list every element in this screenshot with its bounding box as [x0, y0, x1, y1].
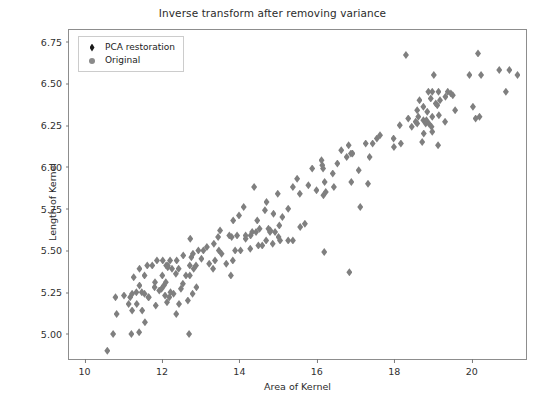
scatter-point [187, 271, 193, 279]
scatter-point [272, 228, 278, 236]
scatter-point [230, 216, 236, 224]
scatter-point [420, 103, 426, 111]
scatter-point [251, 183, 257, 191]
scatter-point [254, 216, 260, 224]
y-tick-label: 6.25 [41, 120, 69, 131]
scatter-point [503, 88, 509, 96]
x-axis-label: Area of Kernel [68, 381, 527, 392]
scatter-point [173, 310, 179, 318]
legend-label-pca-restoration: PCA restoration [100, 41, 175, 54]
scatter-point [259, 241, 265, 249]
scatter-point [309, 165, 315, 173]
scatter-point [217, 226, 223, 234]
scatter-point [285, 205, 291, 213]
scatter-point [276, 221, 282, 229]
scatter-point [330, 170, 336, 178]
y-tick-label: 5.00 [41, 328, 69, 339]
legend-label-original: Original [100, 54, 140, 67]
scatter-point [149, 261, 155, 269]
scatter-point [129, 307, 135, 315]
y-tick-label: 6.75 [41, 36, 69, 47]
scatter-point [142, 318, 148, 326]
y-tick-label: 5.25 [41, 287, 69, 298]
scatter-point [228, 271, 234, 279]
scatter-point [263, 236, 269, 244]
scatter-point [435, 141, 441, 149]
scatter-point [466, 71, 472, 79]
scatter-point [414, 106, 420, 114]
scatter-point [270, 240, 276, 248]
scatter-point [428, 94, 434, 102]
scatter-point [403, 51, 409, 59]
scatter-point [104, 347, 110, 355]
scatter-point [416, 96, 422, 104]
page-title: Inverse transform after removing varianc… [0, 7, 545, 19]
scatter-point [370, 140, 376, 148]
scatter-point [391, 143, 397, 151]
scatter-point [290, 183, 296, 191]
legend-box: PCA restoration Original [78, 36, 184, 72]
scatter-point [136, 328, 142, 336]
scatter-point [405, 115, 411, 123]
scatter-point [206, 260, 212, 268]
scatter-point [142, 271, 148, 279]
scatter-point [348, 178, 354, 186]
scatter-point [398, 140, 404, 148]
y-tick-label: 6.50 [41, 78, 69, 89]
scatter-point [234, 231, 240, 239]
scatter-point [429, 88, 435, 96]
legend-item-pca-restoration: PCA restoration [84, 41, 175, 54]
scatter-point [159, 271, 165, 279]
scatter-point [174, 256, 180, 264]
scatter-point [190, 290, 196, 298]
scatter-point [331, 183, 337, 191]
scatter-point [128, 330, 134, 338]
scatter-point [478, 71, 484, 79]
scatter-point [322, 178, 328, 186]
scatter-point [215, 233, 221, 241]
scatter-point [187, 235, 193, 243]
scatter-point [152, 278, 158, 286]
x-tick-label: 20 [466, 359, 478, 377]
scatter-point [185, 297, 191, 305]
scatter-point [514, 71, 520, 79]
x-tick-label: 16 [311, 359, 323, 377]
scatter-point [139, 307, 145, 315]
scatter-point [110, 330, 116, 338]
scatter-point [419, 138, 425, 146]
scatter-point [424, 108, 430, 116]
scatter-point [223, 260, 229, 268]
scatter-point [305, 181, 311, 189]
scatter-point [421, 130, 427, 138]
scatter-point [236, 211, 242, 219]
y-tick-label: 5.75 [41, 203, 69, 214]
scatter-point [241, 203, 247, 211]
scatter-point [436, 111, 442, 119]
scatter-point [112, 293, 118, 301]
scatter-point [136, 282, 142, 290]
scatter-point [114, 310, 120, 318]
scatter-point [154, 256, 160, 264]
plot-axes: 5.005.255.505.756.006.256.506.75 1012141… [68, 29, 527, 360]
scatter-point [338, 146, 344, 154]
scatter-point [279, 213, 285, 221]
scatter-point [211, 240, 217, 248]
scatter-point [232, 246, 238, 254]
scatter-point [131, 273, 137, 281]
scatter-point [475, 49, 481, 57]
scatter-point [357, 203, 363, 211]
scatter-point [391, 135, 397, 143]
scatter-point [275, 190, 281, 198]
scatter-point [126, 300, 132, 308]
scatter-point [313, 186, 319, 194]
legend-item-original: Original [84, 54, 175, 67]
scatter-point [346, 268, 352, 276]
scatter-point [198, 255, 204, 263]
scatter-point [160, 256, 166, 264]
scatter-point [297, 190, 303, 198]
scatter-point [176, 300, 182, 308]
circle-icon [84, 58, 100, 64]
y-tick-label: 5.50 [41, 245, 69, 256]
y-tick-label: 6.00 [41, 161, 69, 172]
scatter-point [294, 175, 300, 183]
